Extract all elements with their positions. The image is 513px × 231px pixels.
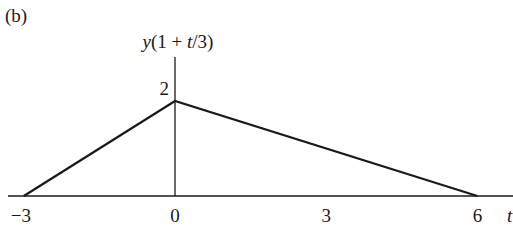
y-axis-label: y(1 + t/3) [141,31,214,53]
x-tick-label: 6 [473,205,483,226]
series-line [24,101,478,196]
panel-label: (b) [5,5,27,27]
x-tick-label: −3 [11,205,31,226]
x-tick-labels: −3036 [11,205,482,226]
x-tick-label: 3 [321,205,331,226]
y-tick-labels: 2 [160,78,170,99]
y-axis-label-open: (1 + [151,31,187,53]
x-tick-label: 0 [170,205,180,226]
chart: (b) y(1 + t/3) t −3036 2 [0,0,513,231]
y-axis-label-close: /3) [192,31,213,53]
series-group [24,101,478,196]
y-axis-label-y: y [141,31,152,52]
x-axis-label: t [507,205,513,226]
y-tick-label: 2 [160,78,170,99]
